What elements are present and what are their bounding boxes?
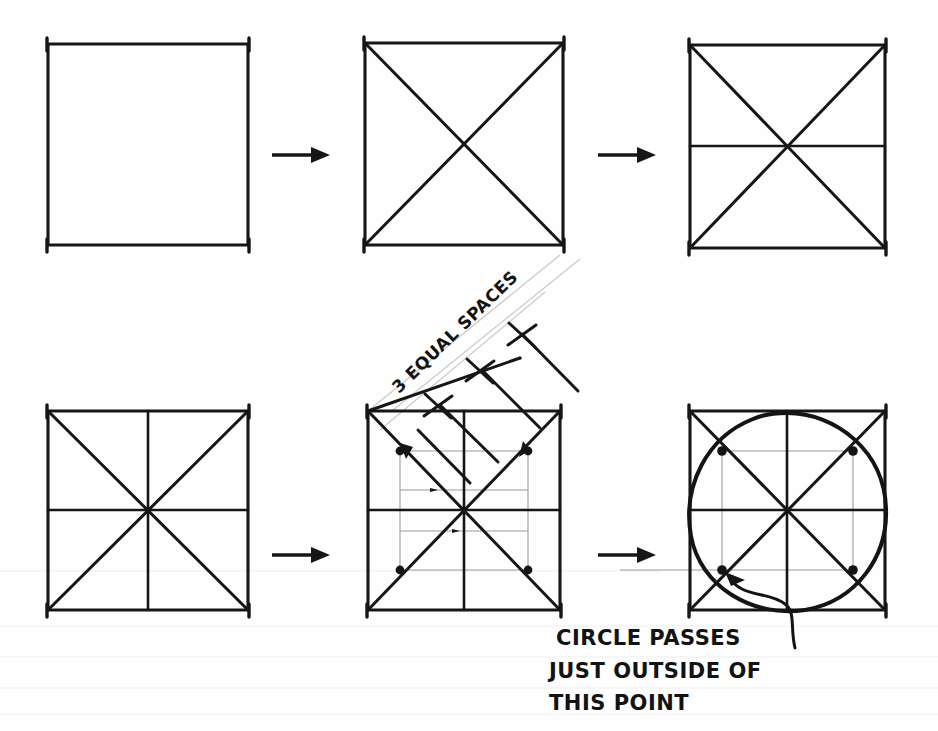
step-6-inscribed-circle xyxy=(620,405,886,648)
arrow-step4-to-step5 xyxy=(272,547,330,563)
step-5-thirds-construction: 3 EQUAL SPACES xyxy=(367,255,580,617)
arrow-step1-to-step2 xyxy=(272,147,330,163)
step-2-square-with-diagonals xyxy=(364,37,564,252)
circle-note-line-3: THIS POINT xyxy=(549,691,689,715)
paper-scan-lines xyxy=(0,571,938,714)
circle-note-line-1: CIRCLE PASSES xyxy=(556,626,741,650)
faint-extension-rays xyxy=(368,255,580,430)
step-3-square-with-horizontal-midline xyxy=(689,39,886,255)
three-equal-spaces-label: 3 EQUAL SPACES xyxy=(388,267,522,397)
arrow-step2-to-step3 xyxy=(598,147,656,163)
step-1-plain-square xyxy=(47,38,249,252)
paper-sheet: 3 EQUAL SPACES xyxy=(0,0,938,731)
step-4-square-with-full-grid xyxy=(47,405,249,617)
circle-note-line-2: JUST OUTSIDE OF xyxy=(547,659,762,683)
arrow-step5-to-step6 xyxy=(598,547,656,563)
construction-diagram: 3 EQUAL SPACES xyxy=(0,0,938,731)
three-equal-spaces-text: 3 EQUAL SPACES xyxy=(388,267,522,397)
circle-note-caption: CIRCLE PASSES JUST OUTSIDE OF THIS POINT xyxy=(547,626,762,715)
